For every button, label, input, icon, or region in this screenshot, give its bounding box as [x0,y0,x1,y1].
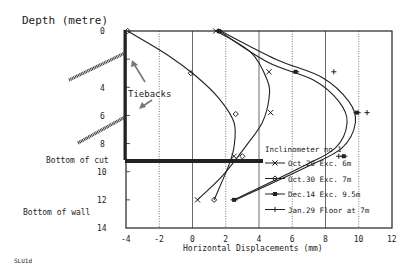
x-tick: 0 [190,235,195,244]
legend-label: Dec.14 Exc. 9.5m [288,190,361,199]
x-tick: 8 [323,235,328,244]
legend-label: Oct.30 Exc. 7m [288,175,352,184]
x-tick: 6 [290,235,295,244]
y-axis-title: Depth (metre) [22,14,108,27]
y-tick-14: 14 [97,224,107,233]
figure-id-label: SLU1d [14,257,32,264]
tiebacks-label: Tiebacks [128,89,171,99]
y-tick-8: 8 [100,140,105,149]
y-tick-4: 4 [100,84,105,93]
x-tick: 10 [354,235,364,244]
arrow-up-icon [131,60,145,82]
bottom-of-wall-label: Bottom of wall [23,208,91,217]
arrow-down-icon [139,100,152,109]
y-tick-0: 0 [100,27,105,36]
legend-label: Jan.29 Floor at 7m [288,206,370,215]
x-tick: 4 [257,235,262,244]
inclinometer-chart: Depth (metre) 0 4 6 8 10 12 14 Bottom of… [0,0,413,273]
x-axis-title: Horizontal Displacements (mm) [183,244,323,253]
legend-item: Dec.14 Exc. 9.5m [265,190,361,199]
legend-item: Oct.20 Exc. 6m [265,159,352,168]
legend-label: Oct.20 Exc. 6m [288,159,352,168]
series-oct30 [125,28,245,202]
x-tick: -4 [121,235,131,244]
tieback-upper [69,53,125,80]
legend-title: Inclinometer no 1 [265,145,342,154]
y-tick-6: 6 [100,112,105,121]
x-tick: 2 [223,235,228,244]
x-tick-labels: -4-2024681012 [121,235,397,244]
legend-item: Jan.29 Floor at 7m [265,206,370,215]
x-tick: 12 [387,235,397,244]
x-tick: -2 [154,235,164,244]
legend-item: Oct.30 Exc. 7m [265,175,352,184]
bottom-of-cut-label: Bottom of cut [46,156,109,165]
y-tick-12: 12 [97,196,107,205]
y-tick-10: 10 [97,168,107,177]
